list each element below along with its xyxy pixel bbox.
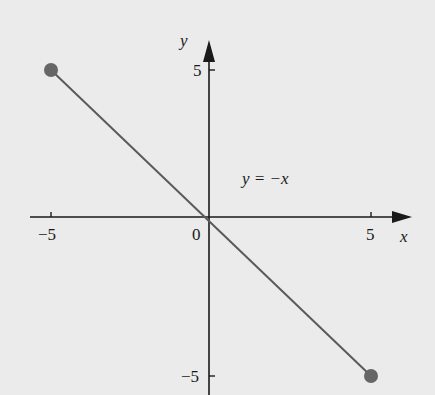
graph: y 5 −5 −5 0 5 x y = −x bbox=[0, 0, 435, 395]
x-tick-label-neg5: −5 bbox=[38, 225, 56, 244]
y-axis-label: y bbox=[178, 31, 188, 50]
y-axis-arrow-icon bbox=[203, 40, 215, 62]
x-axis-label: x bbox=[399, 227, 408, 246]
line-y-equals-neg-x bbox=[51, 70, 371, 376]
x-tick-label-5: 5 bbox=[366, 225, 375, 244]
x-axis-arrow-icon bbox=[392, 211, 412, 223]
equation-label: y = −x bbox=[240, 169, 289, 188]
endpoint-5-neg5 bbox=[364, 369, 378, 383]
y-tick-label-neg5: −5 bbox=[181, 367, 199, 386]
endpoint-neg5-5 bbox=[44, 63, 58, 77]
y-tick-label-5: 5 bbox=[193, 61, 202, 80]
origin-label: 0 bbox=[192, 225, 201, 244]
